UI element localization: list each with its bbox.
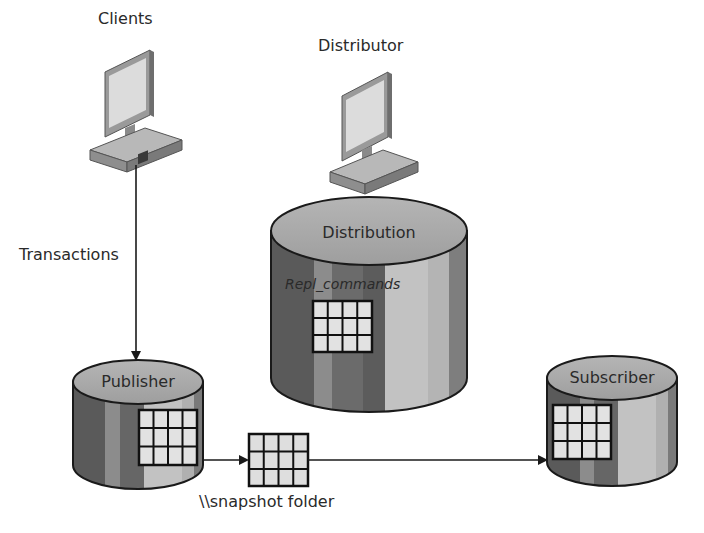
distributor-label: Distributor [318,36,403,55]
snapshot-folder-label: \\snapshot folder [199,492,334,511]
clients-computer-icon [90,50,182,172]
transactions-label: Transactions [19,245,119,264]
distributor-computer-icon [330,72,418,194]
snapshot-table-icon [249,434,308,486]
repl-commands-label: Repl_commands [285,276,400,292]
subscriber-table-icon [553,405,611,459]
clients-label: Clients [98,9,153,28]
distribution-label: Distribution [271,223,467,242]
publisher-label: Publisher [73,372,203,391]
subscriber-label: Subscriber [547,368,677,387]
publisher-table-icon [139,410,197,465]
repl-commands-table-icon [313,301,372,352]
diagram-canvas [0,0,704,533]
